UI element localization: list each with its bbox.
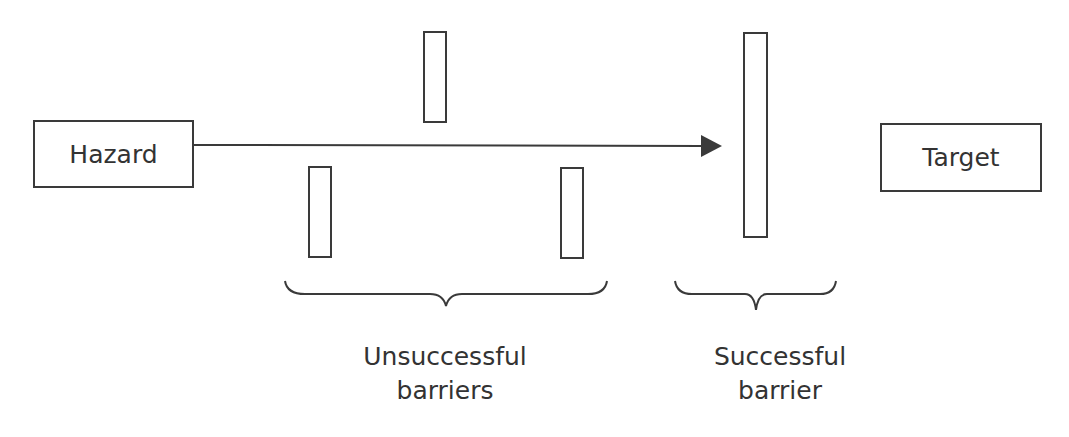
hazard-arrow xyxy=(194,135,722,157)
unsuccessful-barriers-label: Unsuccessful barriers xyxy=(345,340,545,408)
successful-barrier xyxy=(743,32,768,238)
unsuccessful-barrier-bottom-left xyxy=(308,166,332,258)
unsuccessful-line1: Unsuccessful xyxy=(345,340,545,374)
successful-line2: barrier xyxy=(690,374,870,408)
hazard-label: Hazard xyxy=(69,140,157,169)
successful-barrier-label: Successful barrier xyxy=(690,340,870,408)
target-label: Target xyxy=(922,143,999,172)
brace-successful xyxy=(675,281,836,310)
brace-unsuccessful xyxy=(285,281,607,306)
unsuccessful-line2: barriers xyxy=(345,374,545,408)
arrowhead-icon xyxy=(701,135,722,157)
unsuccessful-barrier-bottom-right xyxy=(560,167,584,259)
target-box: Target xyxy=(880,123,1042,192)
unsuccessful-barrier-top xyxy=(423,31,447,123)
successful-line1: Successful xyxy=(690,340,870,374)
hazard-box: Hazard xyxy=(33,120,194,188)
